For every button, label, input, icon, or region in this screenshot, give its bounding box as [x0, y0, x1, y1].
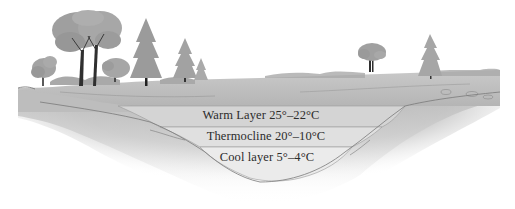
lake-illustration — [0, 0, 515, 209]
warm-layer-label: Warm Layer 25°–22°C — [202, 108, 319, 123]
deciduous-tree-icon — [358, 43, 386, 72]
thermocline-label: Thermocline 20°–10°C — [207, 129, 326, 144]
conifer-tree-icon — [194, 58, 208, 80]
conifer-tree-icon — [173, 38, 197, 82]
cool-layer-label: Cool layer 5°–4°C — [220, 150, 314, 165]
tree-group-left — [31, 10, 208, 86]
tree-group-right — [358, 34, 442, 79]
conifer-tree-icon — [130, 18, 162, 86]
lake-stratification-diagram: Warm Layer 25°–22°C Thermocline 20°–10°C… — [0, 0, 515, 209]
conifer-tree-icon — [418, 34, 442, 79]
